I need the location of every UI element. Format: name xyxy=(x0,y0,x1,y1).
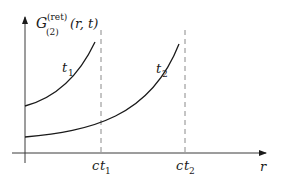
tick-label-ct1: c t 1 xyxy=(92,158,111,176)
curve-label-t1: t 1 xyxy=(62,60,74,78)
svg-text:(ret): (ret) xyxy=(47,12,67,22)
curve-t1 xyxy=(25,42,95,106)
svg-text:(2): (2) xyxy=(46,27,59,37)
curve-label-t2: t 2 xyxy=(156,61,168,79)
svg-text:1: 1 xyxy=(105,166,111,176)
x-axis-label: r xyxy=(260,159,267,174)
svg-text:c: c xyxy=(92,158,100,173)
retarded-green-function-diagram: G (ret) (2) (r, t) t 1 t 2 c t 1 c t 2 r xyxy=(0,0,281,178)
svg-text:1: 1 xyxy=(68,68,74,78)
svg-text:2: 2 xyxy=(162,69,168,79)
svg-text:2: 2 xyxy=(189,166,195,176)
svg-text:c: c xyxy=(176,158,184,173)
curve-t2 xyxy=(25,44,179,137)
tick-label-ct2: c t 2 xyxy=(176,158,195,176)
y-axis-label: G (ret) (2) (r, t) xyxy=(36,12,98,37)
svg-text:(r, t): (r, t) xyxy=(70,16,98,31)
